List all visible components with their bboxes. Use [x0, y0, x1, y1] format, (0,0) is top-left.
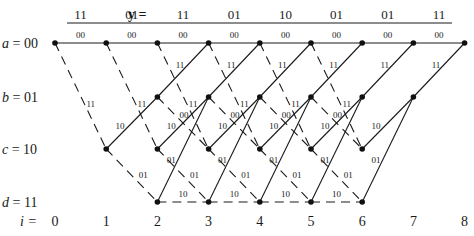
received-symbol: 01	[381, 7, 394, 22]
branch-output-label: 00	[281, 30, 291, 40]
trellis-node-c-t3	[206, 146, 212, 152]
received-symbol: 11	[74, 7, 87, 22]
branch-output-label: 10	[179, 189, 189, 199]
branch-output-label: 10	[281, 189, 291, 199]
trellis-node-b-t3	[206, 94, 212, 100]
branch-output-label: 00	[230, 30, 240, 40]
branch-output-label: 11	[380, 60, 389, 70]
trellis-node-a-t2	[155, 40, 161, 46]
branch-output-label: 10	[167, 121, 177, 131]
branch-output-label: 11	[189, 99, 198, 109]
trellis-node-b-t6	[359, 94, 365, 100]
trellis-node-a-t6	[359, 40, 365, 46]
trellis-node-b-t5	[308, 94, 314, 100]
branch-output-label: 10	[218, 121, 228, 131]
trellis-node-a-t7	[411, 40, 417, 46]
branch-a-c	[106, 43, 157, 149]
trellis-node-a-t3	[206, 40, 212, 46]
trellis-diagram: y = 1101110110010111 a = 00b = 01c = 10d…	[0, 0, 474, 236]
branch-output-label: 00	[76, 30, 86, 40]
trellis-node-a-t4	[257, 40, 263, 46]
branch-output-label: 00	[231, 110, 241, 120]
branch-output-label: 00	[333, 110, 343, 120]
trellis-node-a-t8	[462, 40, 468, 46]
branch-b-a	[157, 43, 208, 97]
branch-output-label: 00	[282, 110, 292, 120]
branch-d-b	[362, 97, 413, 202]
branch-output-label: 10	[320, 121, 330, 131]
branch-output-label: 00	[435, 30, 445, 40]
branch-output-label: 01	[344, 170, 353, 180]
branch-a-c	[55, 43, 106, 149]
branch-a-c	[260, 43, 311, 149]
trellis-node-d-t5	[308, 199, 314, 205]
trellis-node-a-t1	[103, 40, 109, 46]
branch-output-label: 10	[230, 189, 240, 199]
branch-b-a	[413, 43, 464, 97]
branch-a-c	[209, 43, 260, 149]
branch-b-a	[311, 43, 362, 97]
time-tick: 5	[308, 214, 315, 229]
branch-output-label: 01	[241, 170, 250, 180]
time-tick: 2	[154, 214, 161, 229]
trellis-node-b-t7	[411, 94, 417, 100]
branch-output-label: 11	[291, 99, 300, 109]
branch-output-label: 01	[320, 155, 329, 165]
trellis-node-d-t2	[155, 199, 161, 205]
time-tick: 7	[410, 214, 417, 229]
time-label: i =	[20, 214, 37, 229]
branch-output-label: 11	[176, 60, 185, 70]
time-tick: 6	[359, 214, 366, 229]
branch-output-label: 00	[127, 30, 137, 40]
branch-output-label: 01	[139, 170, 148, 180]
trellis-node-c-t2	[155, 146, 161, 152]
branch-c-d	[106, 149, 157, 202]
trellis-nodes	[52, 40, 467, 205]
state-label-c: c = 10	[2, 142, 37, 157]
branch-output-label: 11	[138, 99, 147, 109]
trellis-node-c-t4	[257, 146, 263, 152]
trellis-node-d-t6	[359, 199, 365, 205]
branch-output-label: 01	[292, 170, 301, 180]
branch-output-label: 01	[218, 155, 227, 165]
trellis-node-b-t4	[257, 94, 263, 100]
branch-c-b	[362, 97, 413, 149]
branch-output-label: 11	[86, 99, 95, 109]
branch-output-label: 11	[432, 60, 441, 70]
branch-output-label: 01	[269, 155, 278, 165]
time-tick: 1	[103, 214, 110, 229]
trellis-node-d-t3	[206, 199, 212, 205]
trellis-node-d-t4	[257, 199, 263, 205]
branch-output-label: 01	[190, 170, 199, 180]
received-symbol: 10	[279, 7, 292, 22]
branch-output-label: 10	[332, 189, 342, 199]
branch-b-a	[209, 43, 260, 97]
branch-output-label: 11	[227, 60, 236, 70]
branch-a-c	[311, 43, 362, 149]
branch-output-label: 01	[372, 155, 381, 165]
time-tick: 4	[256, 214, 263, 229]
branch-output-label: 10	[372, 121, 382, 131]
branch-b-a	[362, 43, 413, 97]
received-sequence-header: y = 1101110110010111	[67, 7, 452, 23]
received-symbol: 11	[177, 7, 190, 22]
branch-output-label: 00	[383, 30, 393, 40]
trellis-node-c-t5	[308, 146, 314, 152]
branch-output-label: 11	[342, 99, 351, 109]
time-tick: 0	[52, 214, 59, 229]
state-labels: a = 00b = 01c = 10d = 11	[2, 36, 38, 210]
branch-output-label: 01	[167, 155, 176, 165]
trellis-node-c-t1	[103, 146, 109, 152]
branch-output-label: 11	[329, 60, 338, 70]
state-label-a: a = 00	[2, 36, 38, 51]
branch-output-label: 10	[116, 121, 126, 131]
branch-output-label: 00	[179, 110, 189, 120]
time-tick: 8	[461, 214, 468, 229]
state-label-d: d = 11	[2, 195, 37, 210]
trellis-node-b-t2	[155, 94, 161, 100]
branch-output-label: 11	[240, 99, 249, 109]
trellis-edge-labels: 0011001110010011110010010110001111001001…	[76, 30, 444, 199]
received-symbol: 11	[433, 7, 446, 22]
received-symbol: 01	[228, 7, 241, 22]
branch-output-label: 10	[269, 121, 279, 131]
